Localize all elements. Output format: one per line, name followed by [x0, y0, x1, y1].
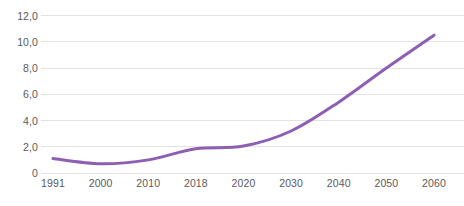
y-axis: 12,010,08,06,04,02,00 — [0, 0, 38, 206]
y-axis-tick-label: 8,0 — [4, 63, 38, 74]
x-axis-tick-label: 2018 — [184, 178, 208, 189]
series-path — [53, 35, 434, 164]
line-chart: 12,010,08,06,04,02,00 199120002010201820… — [0, 0, 464, 206]
x-axis-tick-label: 2050 — [374, 178, 398, 189]
x-axis-tick-label: 2020 — [232, 178, 256, 189]
x-axis-tick-label: 2060 — [422, 178, 446, 189]
x-axis-tick-label: 2010 — [136, 178, 160, 189]
y-axis-tick-label: 12,0 — [4, 10, 38, 21]
y-axis-tick-label: 2,0 — [4, 142, 38, 153]
x-axis-tick-label: 1991 — [41, 178, 65, 189]
y-axis-tick-label: 4,0 — [4, 115, 38, 126]
plot-area — [41, 0, 464, 206]
series-line — [41, 0, 464, 206]
x-axis: 199120002010201820202030204020502060 — [41, 178, 464, 206]
x-axis-tick-label: 2000 — [89, 178, 113, 189]
y-axis-tick-label: 6,0 — [4, 89, 38, 100]
x-axis-tick-label: 2030 — [279, 178, 303, 189]
x-axis-tick-label: 2040 — [327, 178, 351, 189]
y-axis-tick-label: 0 — [4, 168, 38, 179]
y-axis-tick-label: 10,0 — [4, 37, 38, 48]
